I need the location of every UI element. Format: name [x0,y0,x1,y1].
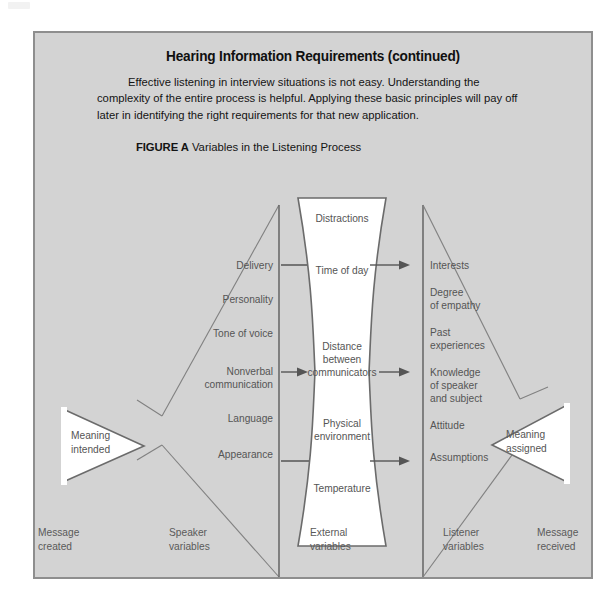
speaker-item-personality: Personality [223,294,274,305]
listener-item-experiences: experiences [430,340,485,351]
listener-item-assumptions: Assumptions [430,452,488,463]
speaker-item-language: Language [228,413,274,424]
speaker-item-delivery: Delivery [236,260,274,271]
figure-label: FIGURE A [136,141,189,153]
speaker-variable-labels: Delivery Personality Tone of voice Nonve… [204,260,273,460]
footer-external-variables-line2: variables [310,541,351,552]
listening-process-diagram: Meaning intended Delivery Personality To… [33,164,593,579]
listener-item-of-empathy: of empathy [430,300,481,311]
external-item-environment: environment [314,431,370,442]
external-item-distractions: Distractions [315,213,368,224]
meaning-intended-arrow: Meaning intended [61,407,144,485]
footer-speaker-variables-line1: Speaker [169,527,208,538]
listener-item-attitude: Attitude [430,420,465,431]
listener-item-knowledge: Knowledge [430,367,481,378]
speaker-item-tone-of-voice: Tone of voice [213,328,273,339]
footer-listener-variables-line1: Listener [443,527,480,538]
footer-external-variables-line1: External [310,527,347,538]
speaker-item-nonverbal: Nonverbal [227,366,273,377]
speaker-item-nonverbal-communication: communication [204,379,273,390]
body-paragraph: Effective listening in interview situati… [97,74,524,123]
footer-message-received-line2: received [537,541,576,552]
figure-caption: FIGURE A Variables in the Listening Proc… [136,141,361,153]
footer-message-created-line1: Message [38,527,80,538]
meaning-assigned-line2: assigned [506,443,547,454]
external-item-communicators: communicators [307,367,376,378]
figure-title: Variables in the Listening Process [192,141,361,153]
footer-message-created-line2: created [38,541,72,552]
footer-speaker-variables-line2: variables [169,541,210,552]
external-item-temperature: Temperature [313,483,371,494]
listener-item-and-subject: and subject [430,393,482,404]
footer-message-received-line1: Message [537,527,579,538]
meaning-intended-line1: Meaning [71,430,110,441]
listener-variable-labels: Interests Degree of empathy Past experie… [430,260,488,463]
external-item-physical: Physical [323,418,361,429]
external-item-time-of-day: Time of day [316,265,370,276]
listener-item-of-speaker: of speaker [430,380,478,391]
scan-artifact-mark [8,2,30,9]
meaning-assigned-arrow: Meaning assigned [492,403,570,484]
external-item-between: between [323,354,362,365]
listener-item-past: Past [430,327,451,338]
figure-panel: Hearing Information Requirements (contin… [33,31,593,579]
page-title: Hearing Information Requirements (contin… [52,48,575,64]
external-item-distance: Distance [322,341,362,352]
center-to-right-arrows [370,261,410,466]
listener-item-interests: Interests [430,260,469,271]
listener-item-degree: Degree [430,287,464,298]
meaning-intended-line2: intended [71,444,110,455]
footer-listener-variables-line2: variables [443,541,484,552]
speaker-item-appearance: Appearance [218,449,273,460]
meaning-assigned-line1: Meaning [506,429,545,440]
document-page: Hearing Information Requirements (contin… [0,0,604,593]
